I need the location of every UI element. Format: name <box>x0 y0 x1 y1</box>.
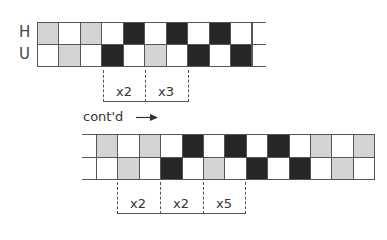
stitch-cell-white <box>80 44 102 67</box>
stitch-cell-white <box>82 134 97 158</box>
repeat-label: x3 <box>150 85 182 98</box>
repeat-label: x2 <box>108 85 140 98</box>
stitch-cell-white <box>166 44 188 67</box>
stitch-cell-white <box>96 157 118 181</box>
repeat-tick <box>160 182 161 214</box>
stitch-cell-white <box>58 22 80 45</box>
repeat-tick <box>245 182 246 214</box>
stitch-cell-white <box>182 157 204 181</box>
stitch-cell-white <box>289 134 311 158</box>
stitch-cell-white <box>160 134 182 158</box>
stitch-cell-white <box>139 157 161 181</box>
stitch-cell-white <box>82 157 97 181</box>
stitch-cell-gray <box>96 134 118 158</box>
stitch-cell-white <box>224 157 246 181</box>
stitch-cell-black <box>166 22 188 45</box>
stitch-cell-white <box>117 134 139 158</box>
stitch-cell-white <box>331 134 353 158</box>
stitch-cell-white <box>203 134 225 158</box>
stitch-cell-gray <box>117 157 139 181</box>
repeat-tick <box>103 70 104 102</box>
stitch-cell-white <box>187 22 209 45</box>
stitch-cell-black <box>230 44 252 67</box>
repeat-bracket <box>103 101 189 102</box>
stitch-cell-white <box>37 44 59 67</box>
stitch-cell-gray <box>80 22 102 45</box>
stitch-cell-black <box>182 134 204 158</box>
row-label-h: H <box>19 25 30 40</box>
stitch-cell-white <box>230 22 252 45</box>
stitch-cell-black <box>160 157 182 181</box>
continuation-label: cont'd <box>83 110 123 123</box>
stitch-cell-white <box>267 157 289 181</box>
stitch-cell-white <box>209 44 231 67</box>
stitch-cell-gray <box>310 134 332 158</box>
stitch-cell-black <box>187 44 209 67</box>
arrow-right-icon <box>136 113 158 122</box>
stitch-cell-white <box>101 22 123 45</box>
repeat-label: x5 <box>208 197 240 210</box>
repeat-label: x2 <box>165 197 197 210</box>
stitch-cell-black <box>289 157 311 181</box>
stitch-cell-white <box>353 157 375 181</box>
stitch-cell-gray <box>353 134 375 158</box>
repeat-bracket <box>117 213 246 214</box>
stitch-cell-white <box>246 134 268 158</box>
repeat-tick <box>188 70 189 102</box>
stitch-cell-white <box>144 22 166 45</box>
stitch-cell-black <box>101 44 123 67</box>
stitch-cell-gray <box>144 44 166 67</box>
stitch-cell-black <box>209 22 231 45</box>
repeat-tick <box>203 182 204 214</box>
stitch-cell-black <box>123 22 145 45</box>
repeat-tick <box>117 182 118 214</box>
stitch-cell-white <box>123 44 145 67</box>
stitch-cell-gray <box>139 134 161 158</box>
stitch-cell-white <box>252 22 266 45</box>
stitch-cell-white <box>252 44 266 67</box>
stitch-cell-black <box>246 157 268 181</box>
repeat-label: x2 <box>122 197 154 210</box>
stitch-cell-gray <box>203 157 225 181</box>
stitch-cell-gray <box>331 157 353 181</box>
stitch-cell-black <box>224 134 246 158</box>
row-label-u: U <box>19 47 30 62</box>
repeat-tick <box>145 70 146 102</box>
stitch-cell-black <box>267 134 289 158</box>
stitch-cell-gray <box>37 22 59 45</box>
stitch-cell-white <box>310 157 332 181</box>
stitch-cell-gray <box>58 44 80 67</box>
